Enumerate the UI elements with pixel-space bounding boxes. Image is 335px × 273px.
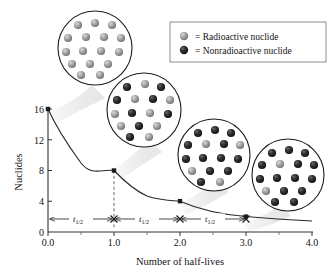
y-axis-title: Nuclides (13, 153, 24, 190)
legend-label-nonradioactive: = Nonradioactive nuclide (195, 46, 292, 56)
callout-circle-0-halflives (58, 11, 132, 85)
halflife-annotations: t1/2 t1/2 t1/2 (50, 214, 250, 226)
data-point-0 (46, 107, 50, 111)
x-tick-labels: 0.0 1.0 2.0 3.0 4.0 (42, 237, 319, 248)
data-point-1 (112, 168, 116, 172)
legend-entry-nonradioactive: = Nonradioactive nuclide (180, 46, 292, 56)
x-tick-label-0: 0.0 (42, 237, 55, 248)
callout-circle-3-halflives (252, 139, 324, 211)
y-tick-label-4: 4 (39, 196, 44, 207)
y-tick-labels: 16 12 8 4 0 (34, 104, 44, 238)
x-tick-label-4: 4.0 (306, 237, 319, 248)
legend-entry-radioactive: = Radioactive nuclide (180, 32, 279, 42)
y-tick-label-0: 0 (39, 227, 44, 238)
radioactive-decay-figure: 16 12 8 4 0 0.0 1.0 2.0 3.0 4.0 Nuclides… (0, 0, 335, 273)
callout-circle-1-halflife (107, 73, 181, 147)
legend-label-radioactive: = Radioactive nuclide (195, 32, 278, 42)
x-tick-label-1: 1.0 (108, 237, 121, 248)
y-tick-label-16: 16 (34, 104, 44, 115)
data-point-2 (178, 199, 182, 203)
x-tick-label-3: 3.0 (240, 237, 253, 248)
radioactive-nuclide-icon (180, 32, 188, 40)
y-tick-label-12: 12 (34, 135, 44, 146)
nonradioactive-nuclide-icon (180, 46, 188, 54)
legend-box (170, 22, 326, 62)
y-tick-label-8: 8 (39, 165, 44, 176)
x-tick-label-2: 2.0 (174, 237, 187, 248)
x-axis-title: Number of half-lives (136, 256, 224, 267)
callout-circle-2-halflives (178, 119, 250, 191)
legend: = Radioactive nuclide = Nonradioactive n… (170, 22, 326, 62)
shadow-cone-1 (50, 85, 105, 122)
